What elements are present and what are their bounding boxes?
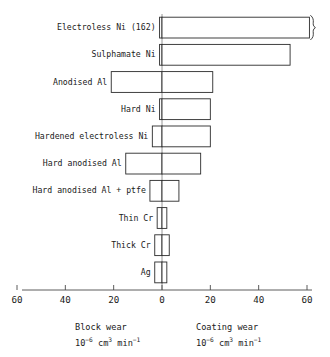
bar-category-label: Hard anodised Al + ptfe <box>33 185 146 195</box>
x-tick-label: 20 <box>108 294 119 305</box>
coating-unit-vol: cm <box>219 338 229 348</box>
bar-coating-wear <box>162 17 309 38</box>
x-axis: 6040200204060 <box>11 285 312 305</box>
coating-unit-time-exp: −1 <box>254 336 262 343</box>
bar-coating-wear <box>162 153 201 174</box>
x-tick-label: 60 <box>301 294 312 305</box>
caption-coating-wear: Coating wear 10−6 cm3 min−1 <box>196 322 262 348</box>
bar-block-wear <box>152 126 162 147</box>
block-unit-vol: cm <box>98 338 108 348</box>
bar-coating-wear <box>162 126 210 147</box>
bar-category-label: Ag <box>141 267 151 277</box>
x-tick-label: 40 <box>253 294 264 305</box>
x-tick-label: 40 <box>60 294 71 305</box>
bar-coating-wear <box>162 235 169 256</box>
bar-coating-wear <box>162 208 167 229</box>
bar-coating-wear <box>162 262 167 283</box>
bar-category-label: Hard anodised Al <box>43 158 122 168</box>
axis-break-icon <box>310 15 315 40</box>
bar-block-wear <box>157 208 162 229</box>
bar-coating-wear <box>162 99 210 120</box>
bar-category-label: Thick Cr <box>111 240 151 250</box>
x-tick-label: 0 <box>159 294 165 305</box>
caption-block-wear: Block wear 10−6 cm3 min−1 <box>75 322 141 348</box>
block-unit-time-exp: −1 <box>133 336 141 343</box>
x-axis-ticks: 6040200204060 <box>11 285 312 305</box>
bar-category-label: Hardened electroless Ni <box>35 131 148 141</box>
bar-block-wear <box>111 72 162 93</box>
bar-coating-wear <box>162 44 290 65</box>
chart-canvas: Electroless Ni (162)Sulphamate NiAnodise… <box>0 0 330 357</box>
bar-coating-wear <box>162 72 213 93</box>
block-wear-caption-name: Block wear <box>75 322 127 332</box>
wear-comparison-chart: Electroless Ni (162)Sulphamate NiAnodise… <box>0 0 330 357</box>
bar-block-wear <box>155 235 162 256</box>
bar-block-wear <box>150 180 162 201</box>
coating-unit-base: 10 <box>196 338 206 348</box>
bar-category-label: Sulphamate Ni <box>92 49 156 59</box>
bar-category-label: Anodised Al <box>53 77 107 87</box>
block-unit-base: 10 <box>75 338 85 348</box>
coating-wear-caption-name: Coating wear <box>196 322 258 332</box>
block-wear-caption-unit: 10−6 cm3 min−1 <box>75 336 141 348</box>
x-tick-label: 60 <box>11 294 22 305</box>
coating-unit-time: min <box>238 338 254 348</box>
bar-category-label: Thin Cr <box>119 213 154 223</box>
bar-labels-layer: Electroless Ni (162)Sulphamate NiAnodise… <box>33 22 156 277</box>
x-tick-label: 20 <box>205 294 216 305</box>
bar-category-label: Hard Ni <box>121 104 156 114</box>
bar-block-wear <box>155 262 162 283</box>
bar-coating-wear <box>162 180 179 201</box>
bar-block-wear <box>126 153 162 174</box>
block-unit-time: min <box>117 338 133 348</box>
coating-wear-caption-unit: 10−6 cm3 min−1 <box>196 336 262 348</box>
bar-category-label: Electroless Ni (162) <box>57 22 156 32</box>
